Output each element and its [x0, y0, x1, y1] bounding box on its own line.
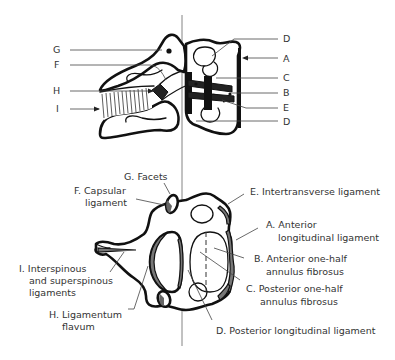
facet-dot [166, 48, 171, 53]
leader-E-axial [228, 194, 244, 204]
disc-vertical-bar [204, 76, 212, 110]
label-E-axial: E. Intertransverse ligament [250, 186, 380, 197]
label-D-axial: D. Posterior longitudinal ligament [216, 325, 376, 336]
label-B-axial-line1: B. Anterior one-half [254, 253, 348, 264]
label-H-lateral: H [53, 85, 60, 96]
label-G-lateral: G [53, 44, 60, 55]
upper-lamina [100, 35, 186, 91]
label-F-axial-line1: F. Capsular [74, 185, 126, 196]
label-B-axial-line2: annulus fibrosus [266, 266, 344, 277]
label-I-axial-line3: ligaments [29, 287, 76, 298]
leader-F-axial [136, 199, 164, 205]
label-H-axial-line2: flavum [62, 321, 95, 332]
label-G-axial: G. Facets [124, 171, 168, 182]
label-F-lateral: F [54, 59, 59, 70]
label-C-lateral: C [283, 72, 290, 83]
spinal-ligaments-diagram: G F H I D A C B E D [0, 0, 395, 360]
label-C-axial-line1: C. Posterior one-half [246, 283, 343, 294]
label-I-axial-line1: I. Interspinous [19, 263, 87, 274]
label-A-axial-line1: A. Anterior [266, 219, 317, 230]
leader-G-axial [164, 183, 170, 194]
anterior-longitudinal-ligament-lateral [238, 48, 241, 128]
axial-view: G. Facets F. Capsular ligament E. Intert… [19, 171, 380, 336]
lateral-view: G F H I D A C B E D [53, 33, 290, 138]
label-E-lateral: E [283, 102, 289, 113]
label-D-bottom-lateral: D [283, 116, 290, 127]
label-B-lateral: B [283, 87, 290, 98]
label-F-axial-line2: ligament [85, 197, 127, 208]
label-D-top-lateral: D [283, 33, 290, 44]
label-A-axial-line2: longitudinal ligament [278, 232, 379, 243]
label-H-axial-line1: H. Ligamentum [49, 309, 122, 320]
label-I-axial-line2: and superspinous [29, 275, 113, 286]
label-A-lateral: A [283, 53, 290, 64]
leader-A-axial [236, 228, 258, 240]
label-C-axial-line2: annulus fibrosus [260, 296, 338, 307]
label-I-lateral: I [56, 103, 59, 114]
